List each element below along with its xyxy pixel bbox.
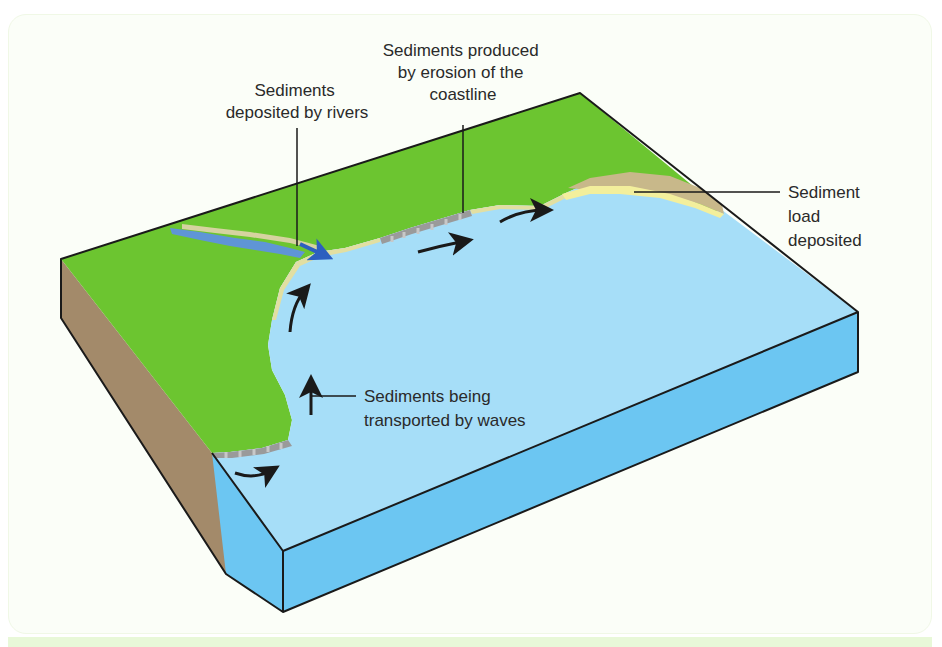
- coastal-block-diagram: Sediments deposited by rivers Sediments …: [0, 0, 942, 647]
- label-erosion: Sediments produced by erosion of the coa…: [383, 41, 544, 104]
- label-rivers: Sediments deposited by rivers: [226, 81, 369, 122]
- label-deposited: Sediment load deposited: [788, 183, 865, 250]
